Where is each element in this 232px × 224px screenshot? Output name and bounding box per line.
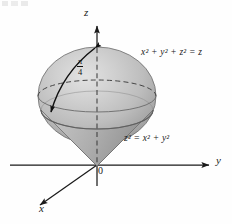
x-axis <box>40 165 97 205</box>
x-axis-label: x <box>39 203 44 214</box>
sphere-equation-label: x² + y² + z² = z <box>141 48 202 58</box>
origin-label: 0 <box>98 166 103 176</box>
cone-equation-label: z² = x² + y² <box>124 134 169 144</box>
angle-denominator: 4 <box>77 68 83 77</box>
angle-numerator: π <box>77 57 83 66</box>
z-axis-label: z <box>84 7 88 18</box>
solid-geometry-figure <box>0 0 232 224</box>
page-corner-artifact <box>2 1 32 6</box>
polar-angle-label: π 4 <box>77 57 83 76</box>
y-axis-label: y <box>216 155 221 166</box>
